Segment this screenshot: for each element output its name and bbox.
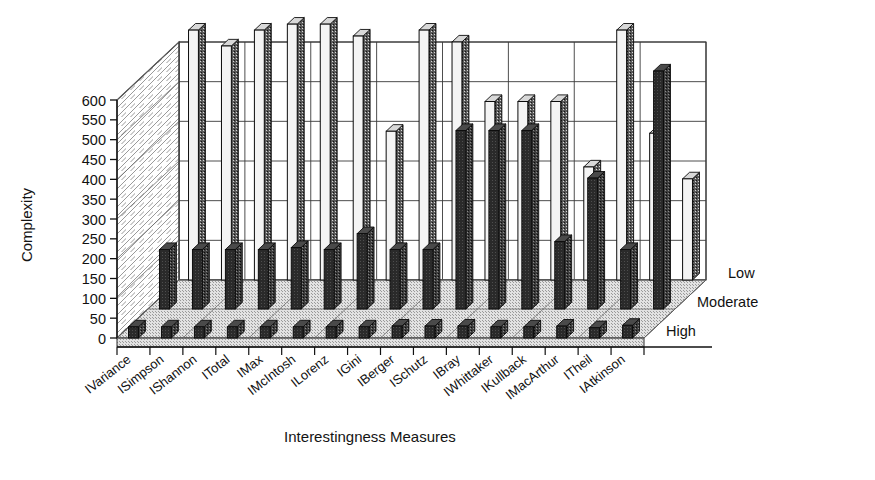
bar bbox=[555, 235, 572, 309]
bar bbox=[390, 243, 407, 309]
y-tick-label: 50 bbox=[90, 311, 106, 327]
bar bbox=[192, 243, 209, 309]
y-tick-label: 300 bbox=[82, 212, 106, 228]
y-tick-label: 350 bbox=[82, 192, 106, 208]
bar bbox=[225, 243, 242, 309]
bar bbox=[489, 124, 506, 309]
bar bbox=[189, 24, 206, 281]
y-tick-label: 200 bbox=[82, 251, 106, 267]
bar bbox=[258, 243, 275, 309]
depth-axis-label-low: Low bbox=[728, 265, 755, 281]
bar bbox=[419, 24, 436, 281]
bar bbox=[254, 24, 271, 281]
chart-figure: 050100150200250300350400450500550600 IVa… bbox=[0, 0, 875, 480]
bar bbox=[324, 243, 341, 309]
bar bbox=[320, 18, 337, 280]
y-tick-label: 0 bbox=[98, 331, 106, 347]
bar bbox=[588, 172, 605, 310]
y-tick-label: 600 bbox=[82, 93, 106, 109]
bar bbox=[683, 172, 700, 280]
y-tick-label: 400 bbox=[82, 172, 106, 188]
y-tick-label: 500 bbox=[82, 132, 106, 148]
bar bbox=[357, 227, 374, 309]
bar bbox=[456, 124, 473, 309]
bar bbox=[621, 243, 638, 309]
bar bbox=[291, 241, 308, 309]
bar bbox=[617, 24, 634, 281]
bar bbox=[160, 243, 177, 309]
y-tick-label: 450 bbox=[82, 152, 106, 168]
bar bbox=[654, 64, 671, 309]
complexity-3d-bar-chart: 050100150200250300350400450500550600 IVa… bbox=[0, 0, 875, 480]
y-tick-label: 150 bbox=[82, 271, 106, 287]
bar bbox=[522, 124, 539, 309]
x-axis-title: Interestingness Measures bbox=[284, 428, 456, 445]
y-tick-label: 250 bbox=[82, 231, 106, 247]
bar bbox=[423, 243, 440, 309]
y-tick-label: 550 bbox=[82, 112, 106, 128]
depth-axis-label-high: High bbox=[666, 323, 696, 339]
depth-axis-label-moderate: Moderate bbox=[697, 294, 758, 310]
y-axis-title: Complexity bbox=[18, 187, 35, 262]
y-tick-label: 100 bbox=[82, 291, 106, 307]
